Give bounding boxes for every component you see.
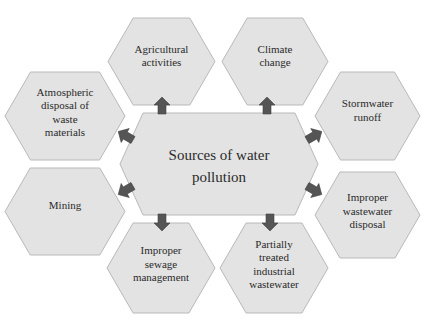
center-label: pollution: [192, 169, 247, 185]
node-climate: Climatechange: [222, 18, 328, 105]
node-stormwater: Stormwaterrunoff: [315, 72, 420, 160]
center-label: Sources of water: [169, 147, 270, 163]
node-label: sewage: [145, 258, 177, 270]
node-label: Stormwater: [342, 97, 394, 109]
node-label: disposal of: [41, 99, 89, 111]
center-node: Sources of waterpollution: [120, 113, 318, 215]
node-label: Atmospheric: [37, 86, 94, 98]
node-label: Agricultural: [135, 43, 189, 55]
node-label: wastewater: [343, 205, 393, 217]
center-hexagon-shape: [120, 113, 318, 215]
node-label: activities: [142, 56, 182, 68]
node-mining: Mining: [5, 168, 125, 255]
node-label: materials: [45, 126, 85, 138]
node-label: Improper: [347, 191, 388, 203]
node-label: runoff: [354, 111, 382, 123]
node-label: change: [259, 56, 290, 68]
node-label: Partially: [255, 238, 293, 250]
node-label: management: [133, 271, 189, 283]
node-label: waste: [52, 113, 77, 125]
node-improper-sewage: Impropersewagemanagement: [107, 223, 215, 313]
node-label: Improper: [141, 244, 182, 256]
node-label: industrial: [253, 265, 295, 277]
node-label: wastewater: [249, 278, 299, 290]
node-improper-wastewater: Improperwastewaterdisposal: [315, 172, 420, 258]
node-label: Climate: [258, 43, 293, 55]
hexagon-shape: [5, 168, 125, 255]
water-pollution-diagram: AgriculturalactivitiesClimatechangeAtmos…: [0, 0, 440, 328]
node-label: treated: [259, 251, 289, 263]
node-partially-treated: Partiallytreatedindustrialwastewater: [220, 223, 328, 313]
node-label: disposal: [349, 218, 385, 230]
node-atmospheric: Atmosphericdisposal ofwastematerials: [5, 72, 125, 160]
node-agricultural: Agriculturalactivities: [108, 18, 215, 105]
node-label: Mining: [49, 199, 82, 211]
